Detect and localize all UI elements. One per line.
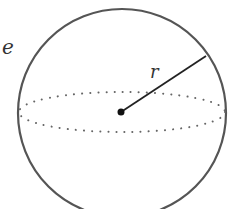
partial-label: e [2, 35, 14, 59]
center-point [118, 109, 125, 116]
radius-label: r [150, 61, 160, 82]
radius-line [121, 56, 206, 112]
sphere-diagram: e r [0, 0, 235, 209]
